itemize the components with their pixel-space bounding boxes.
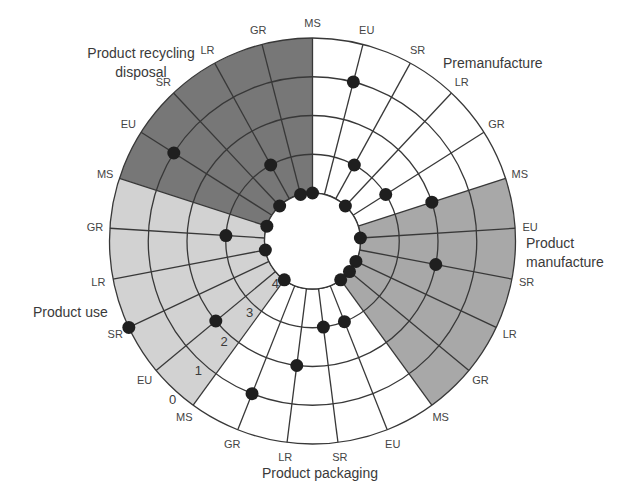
data-point <box>338 315 351 328</box>
spoke-label: EU <box>385 438 400 450</box>
data-point <box>354 231 367 244</box>
spoke-label: SR <box>410 44 425 56</box>
scale-tick-label: 0 <box>169 392 176 407</box>
data-point <box>347 75 360 88</box>
spoke-label: LR <box>91 276 105 288</box>
spoke-label: EU <box>359 24 374 36</box>
spoke-label: MS <box>97 168 114 180</box>
stage-label-line: Product use <box>33 303 108 322</box>
scale-tick-label: 1 <box>195 363 202 378</box>
spoke-label: SR <box>332 451 347 463</box>
scale-tick-label: 3 <box>246 305 253 320</box>
stage-label-line: Product <box>526 234 604 253</box>
spoke-label: LR <box>503 328 517 340</box>
data-point <box>209 314 222 327</box>
spoke-label: SR <box>519 276 534 288</box>
stage-label-line: Product recycling <box>84 44 198 63</box>
spoke-label: MS <box>176 411 193 423</box>
target-plot: MSEUSRLRGRMSEUSRLRGRMSEUSRLRGRMSEUSRLRGR… <box>0 0 642 498</box>
spoke-label: MS <box>432 411 449 423</box>
stage-label-line: Product packaging <box>262 464 378 483</box>
spoke-label: EU <box>137 374 152 386</box>
spoke-label: LR <box>455 76 469 88</box>
data-point <box>264 158 277 171</box>
stage-label-manufacture: Product manufacture <box>526 234 604 272</box>
spoke-label: MS <box>304 17 321 29</box>
data-point <box>379 188 392 201</box>
data-point <box>425 196 438 209</box>
spoke-label: SR <box>108 328 123 340</box>
data-point <box>334 273 347 286</box>
spoke-label: GR <box>224 438 241 450</box>
data-point <box>306 187 319 200</box>
spoke-label: MS <box>512 168 529 180</box>
spoke-label: LR <box>200 44 214 56</box>
stage-label-premanufacture: Premanufacture <box>443 54 543 73</box>
data-point <box>167 146 180 159</box>
spoke-label: EU <box>121 118 136 130</box>
stage-label-line: Premanufacture <box>443 54 543 73</box>
data-point <box>294 188 307 201</box>
data-point <box>122 321 135 334</box>
data-point <box>317 321 330 334</box>
spoke-label: GR <box>472 374 489 386</box>
spoke-label: GR <box>87 221 104 233</box>
spoke-label: LR <box>278 451 292 463</box>
stage-label-use: Product use <box>33 303 108 322</box>
data-point <box>219 229 232 242</box>
spoke-label: GR <box>250 24 267 36</box>
data-point <box>259 243 272 256</box>
stage-label-recycling: Product recycling disposal <box>84 44 198 82</box>
data-point <box>339 200 352 213</box>
spoke-label: EU <box>522 221 537 233</box>
stage-label-line: manufacture <box>526 253 604 272</box>
stage-label-line: disposal <box>84 63 198 82</box>
data-point <box>348 158 361 171</box>
spoke-label: GR <box>488 118 505 130</box>
data-point <box>290 359 303 372</box>
scale-tick-label: 4 <box>272 276 279 291</box>
data-point <box>260 220 273 233</box>
data-point <box>278 273 291 286</box>
data-point <box>429 258 442 271</box>
data-point <box>246 387 259 400</box>
stage-label-packaging: Product packaging <box>262 464 378 483</box>
data-point <box>273 200 286 213</box>
scale-tick-label: 2 <box>220 334 227 349</box>
